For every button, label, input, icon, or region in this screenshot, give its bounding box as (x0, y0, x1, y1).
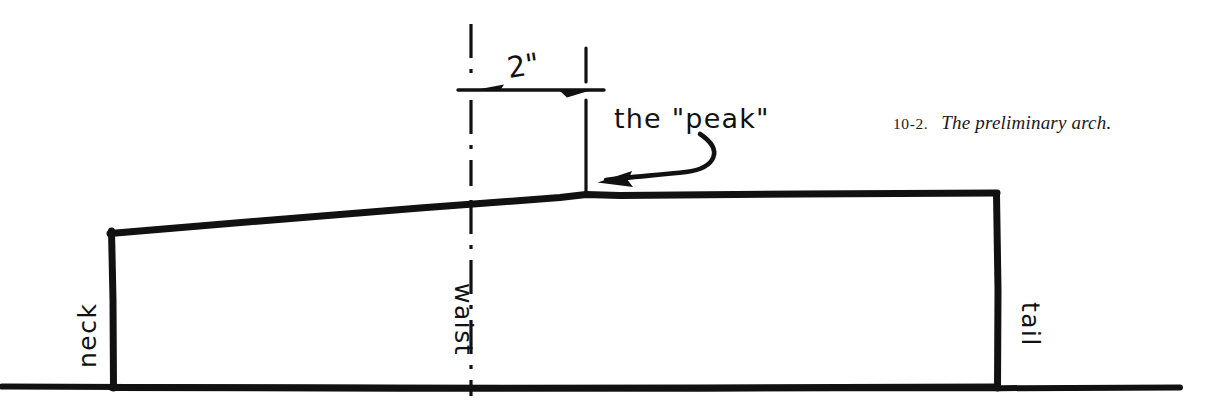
caption-number: 10-2. (893, 115, 928, 132)
caption-text: The preliminary arch. (941, 112, 1111, 133)
callout-label-peak: the "peak" (614, 103, 770, 134)
tail-post (997, 194, 999, 389)
arch-drawing-canvas: 2" the "peak" neck waist tail (0, 0, 1224, 409)
arch-bottom-line (112, 387, 996, 388)
label-tail: tail (1016, 302, 1045, 347)
label-waist: waist (449, 283, 478, 356)
label-neck: neck (73, 303, 102, 368)
callout-arrow-curve (606, 134, 714, 180)
dimension-arrowhead-right (558, 89, 590, 97)
dimension-label-2in: 2" (505, 46, 542, 85)
figure-caption: 10-2.The preliminary arch. (893, 112, 1111, 134)
dimension-arrowhead-left (472, 85, 504, 91)
arch-top-profile (110, 193, 997, 234)
neck-post (112, 231, 114, 388)
callout-arrowhead (598, 171, 634, 187)
figure-preliminary-arch: 2" the "peak" neck waist tail 10-2.The p… (0, 0, 1224, 409)
